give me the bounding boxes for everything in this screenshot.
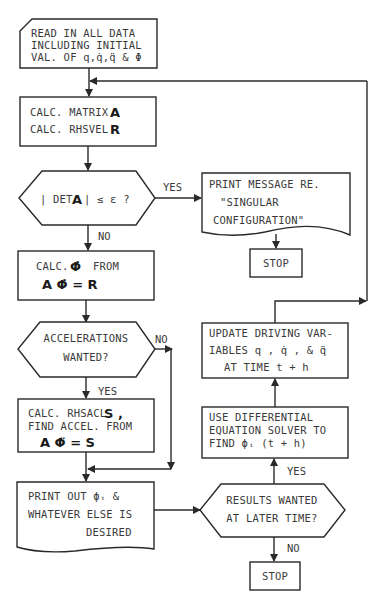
calc-rhsvel-text: CALC. RHSVEL [30,123,108,135]
ode-line-2: EQUATION SOLVER TO [209,424,326,436]
node-print-out: PRINT OUT ϕᵢ & WHATEVER ELSE IS DESIRED [17,482,154,552]
node-update-vars: UPDATE DRIVING VAR- IABLES q , q̇ , & q̈… [202,323,348,378]
update-line-1: UPDATE DRIVING VAR- [209,327,333,339]
matrix-a-symbol: A [110,105,120,120]
node-stop-2: STOP [250,562,300,590]
print-out-line-3: DESIRED [86,526,132,538]
stop-1-text: STOP [263,257,289,269]
stop-2-text: STOP [262,570,288,582]
label-results-yes: YES [287,465,306,477]
calc-phidot-text: CALC. [36,260,69,272]
phi-dot-symbol: Φ̇ [70,259,81,274]
ode-line-3: FIND ϕᵢ (t + h) [209,437,307,449]
label-det-yes: YES [163,181,182,193]
accel-wanted-line-1: ACCELERATIONS [44,332,129,344]
read-data-line-3: VAL. OF q,q̇,q̈ & Φ [31,51,142,63]
flowchart: READ IN ALL DATA INCLUDING INITIAL VAL. … [0,0,382,604]
node-ode-solver: USE DIFFERENTIAL EQUATION SOLVER TO FIND… [202,407,348,458]
print-singular-line-3: CONFIGURATION" [213,214,304,226]
read-data-line-1: READ IN ALL DATA [31,27,136,39]
print-singular-line-2: "SINGULAR [220,196,279,208]
det-text-pre: | DET [40,193,73,206]
det-a-symbol: A [72,192,82,207]
label-results-no: NO [287,542,300,554]
node-calc-accel: CALC. RHSACL S , FIND ACCEL. FROM A Φ̈ =… [18,399,154,452]
det-text-post: | ≤ ε ? [84,193,130,206]
print-out-line-1: PRINT OUT ϕᵢ & [28,490,120,502]
equation-velocity: A Φ̇ = R [42,277,98,292]
calc-matrix-text: CALC. MATRIX [30,106,109,118]
node-stop-1: STOP [250,249,302,277]
from-text: FROM [93,260,119,272]
vector-s-symbol: S , [104,406,123,421]
vector-r-symbol: R [110,122,120,137]
node-det-check: | DET A | ≤ ε ? [19,171,155,225]
edge-update-to-loop [275,301,366,323]
node-read-data: READ IN ALL DATA INCLUDING INITIAL VAL. … [20,19,157,68]
read-data-line-2: INCLUDING INITIAL [31,39,142,51]
equation-acceleration: A Φ̈ = S [40,435,95,450]
print-out-line-2: WHATEVER ELSE IS [28,508,132,520]
results-line-1: RESULTS WANTED [226,494,317,506]
results-line-2: AT LATER TIME? [226,512,317,524]
label-accel-no: NO [155,333,168,345]
node-calc-matrix: CALC. MATRIX A CALC. RHSVEL R [20,97,156,146]
label-accel-yes: YES [98,385,117,397]
update-line-2: IABLES q , q̇ , & q̈ [209,344,326,356]
print-singular-line-1: PRINT MESSAGE RE. [209,178,320,190]
label-det-no: NO [98,230,111,242]
accel-wanted-line-2: WANTED? [63,351,109,363]
calc-rhsacl-text: CALC. RHSACL [28,407,106,419]
find-accel-text: FIND ACCEL. FROM [28,420,132,432]
node-results-later: RESULTS WANTED AT LATER TIME? [200,484,345,537]
node-calc-phidot: CALC. Φ̇ FROM A Φ̇ = R [18,251,154,300]
ode-line-1: USE DIFFERENTIAL [209,411,313,423]
node-accel-wanted: ACCELERATIONS WANTED? [18,322,155,377]
update-line-3: AT TIME t + h [224,361,309,373]
node-print-singular: PRINT MESSAGE RE. "SINGULAR CONFIGURATIO… [202,173,350,235]
